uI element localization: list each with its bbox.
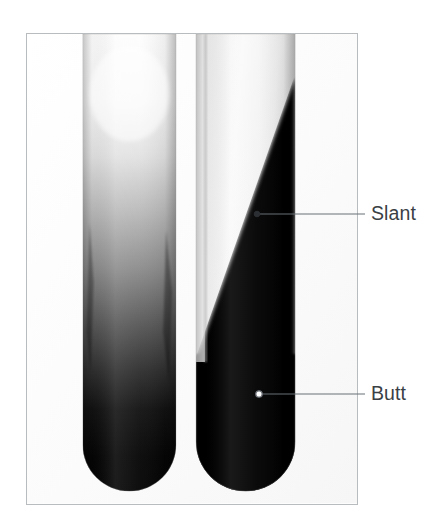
figure-root: Slant Butt [0,0,444,532]
photo-background [27,34,357,503]
label-butt: Butt [371,384,406,404]
label-slant: Slant [371,204,416,224]
right-tube [196,34,295,503]
left-tube [83,34,176,503]
tube-photograph [27,34,357,503]
right-tube-cylinder-shading [196,34,295,503]
photo-frame [26,33,358,505]
left-tube-top-highlight [90,46,170,141]
